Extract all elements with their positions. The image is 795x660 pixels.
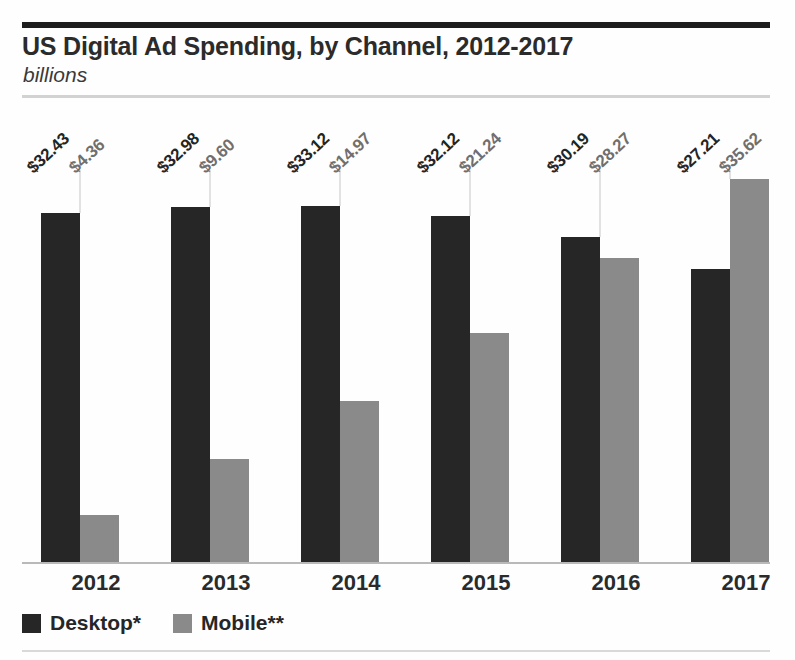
x-tick-label-2016: 2016 bbox=[561, 570, 671, 596]
footer-rule bbox=[22, 650, 770, 652]
legend-label-desktop: Desktop* bbox=[50, 611, 141, 635]
bars bbox=[561, 162, 671, 562]
bar-desktop-2013 bbox=[171, 207, 210, 562]
bars bbox=[431, 162, 541, 562]
legend-label-mobile: Mobile** bbox=[201, 611, 284, 635]
x-tick-label-2013: 2013 bbox=[171, 570, 281, 596]
chart-legend: Desktop* Mobile** bbox=[22, 608, 316, 638]
bar-group-2016: $30.19$28.272016 bbox=[561, 0, 671, 660]
bars bbox=[41, 162, 151, 562]
bar-mobile-2015 bbox=[470, 333, 509, 562]
x-tick-label-2017: 2017 bbox=[691, 570, 795, 596]
desktop-swatch-icon bbox=[22, 614, 41, 633]
bar-mobile-2017 bbox=[730, 179, 769, 562]
x-tick-label-2012: 2012 bbox=[41, 570, 151, 596]
legend-item-desktop: Desktop* bbox=[22, 611, 141, 635]
bars bbox=[301, 162, 411, 562]
bar-desktop-2014 bbox=[301, 206, 340, 562]
bar-group-2012: $32.43$4.362012 bbox=[41, 0, 151, 660]
bar-desktop-2016 bbox=[561, 237, 600, 562]
bars bbox=[171, 162, 281, 562]
x-tick-label-2014: 2014 bbox=[301, 570, 411, 596]
bar-group-2014: $33.12$14.972014 bbox=[301, 0, 411, 660]
bar-group-2015: $32.12$21.242015 bbox=[431, 0, 541, 660]
x-tick-label-2015: 2015 bbox=[431, 570, 541, 596]
bars bbox=[691, 162, 795, 562]
bar-group-2017: $27.21$35.622017 bbox=[691, 0, 795, 660]
chart-page: US Digital Ad Spending, by Channel, 2012… bbox=[0, 0, 795, 660]
plot-area: $32.43$4.362012$32.98$9.602013$33.12$14.… bbox=[0, 0, 795, 660]
legend-item-mobile: Mobile** bbox=[173, 611, 284, 635]
bar-mobile-2016 bbox=[600, 258, 639, 562]
bar-desktop-2017 bbox=[691, 269, 730, 562]
bar-mobile-2012 bbox=[80, 515, 119, 562]
bar-desktop-2012 bbox=[41, 213, 80, 562]
bar-group-2013: $32.98$9.602013 bbox=[171, 0, 281, 660]
bar-mobile-2014 bbox=[340, 401, 379, 562]
bar-desktop-2015 bbox=[431, 216, 470, 562]
bar-mobile-2013 bbox=[210, 459, 249, 562]
mobile-swatch-icon bbox=[173, 614, 192, 633]
